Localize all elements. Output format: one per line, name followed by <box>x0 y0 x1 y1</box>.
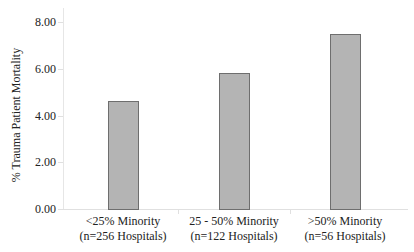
y-tick-label: 8.00 <box>24 15 56 30</box>
y-tick-label: 2.00 <box>24 155 56 170</box>
y-axis-line <box>63 8 64 210</box>
x-tick-label-line: <25% Minority <box>63 214 183 229</box>
y-tick-label: 4.00 <box>24 108 56 123</box>
y-tick-mark <box>58 209 63 210</box>
x-tick-label-line: >50% Minority <box>285 214 405 229</box>
bar <box>108 101 139 210</box>
x-category-separator <box>290 209 291 214</box>
y-tick-label: 0.00 <box>24 202 56 217</box>
x-tick-label: >50% Minority(n=56 Hospitals) <box>285 214 405 244</box>
x-category-separator <box>178 209 179 214</box>
y-axis-label: % Trauma Patient Mortality <box>9 48 24 182</box>
x-tick-label: <25% Minority(n=256 Hospitals) <box>63 214 183 244</box>
y-tick-mark <box>58 116 63 117</box>
y-tick-mark <box>58 162 63 163</box>
x-tick-label-line: (n=122 Hospitals) <box>174 229 294 244</box>
x-tick-label-line: (n=256 Hospitals) <box>63 229 183 244</box>
bar <box>330 34 361 210</box>
y-tick-mark <box>58 22 63 23</box>
x-tick-label: 25 - 50% Minority(n=122 Hospitals) <box>174 214 294 244</box>
y-tick-label: 6.00 <box>24 61 56 76</box>
bar <box>219 73 250 210</box>
x-tick-label-line: (n=56 Hospitals) <box>285 229 405 244</box>
y-tick-mark <box>58 69 63 70</box>
x-tick-label-line: 25 - 50% Minority <box>174 214 294 229</box>
